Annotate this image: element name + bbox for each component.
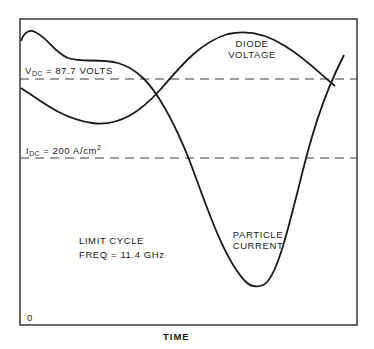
limit-cycle-annotation: LIMIT CYCLE FREQ = 11.4 GHz: [79, 235, 165, 260]
origin-label: 0: [27, 312, 33, 323]
particle-current-label-line2: CURRENT: [228, 240, 288, 251]
particle-current-label: PARTICLE CURRENT: [228, 229, 288, 251]
idc-label-exponent: 2: [97, 144, 102, 151]
annotation-line2: FREQ = 11.4 GHz: [79, 249, 165, 260]
vdc-label-sub: DC: [32, 70, 43, 77]
idc-label-sub: DC: [29, 150, 40, 157]
vdc-label: VDC = 87.7 VOLTS: [25, 65, 113, 77]
diode-voltage-label-line1: DIODE: [222, 38, 282, 49]
particle-current-label-line1: PARTICLE: [228, 229, 288, 240]
diode-voltage-label: DIODE VOLTAGE: [222, 38, 282, 60]
limit-cycle-diagram: [0, 0, 374, 349]
idc-label-value: = 200 A/cm: [40, 145, 97, 156]
particle-current-curve: [21, 32, 335, 123]
vdc-label-main: V: [25, 65, 32, 76]
x-axis-label: TIME: [163, 331, 190, 342]
idc-label: IDC = 200 A/cm2: [26, 145, 102, 157]
diode-voltage-label-line2: VOLTAGE: [222, 49, 282, 60]
vdc-label-value: = 87.7 VOLTS: [43, 65, 113, 76]
annotation-line1: LIMIT CYCLE: [79, 235, 165, 246]
